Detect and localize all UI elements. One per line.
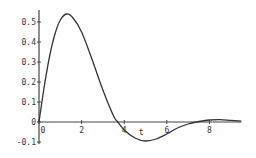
- y-tick-label: 0: [31, 118, 36, 127]
- y-tick-label: 0.1: [22, 98, 37, 107]
- chart: -0.100.10.20.30.40.502468t: [0, 0, 256, 158]
- y-tick-label: 0.4: [22, 38, 37, 47]
- x-tick-label: 8: [207, 126, 212, 135]
- y-tick-label: 0.2: [22, 78, 37, 87]
- y-tick-label: -0.1: [17, 138, 36, 147]
- y-tick-label: 0.5: [22, 18, 37, 27]
- x-tick-label: 2: [79, 126, 84, 135]
- y-tick-label: 0.3: [22, 58, 37, 67]
- x-tick-label: 0: [41, 126, 46, 135]
- x-axis-label: t: [139, 128, 144, 137]
